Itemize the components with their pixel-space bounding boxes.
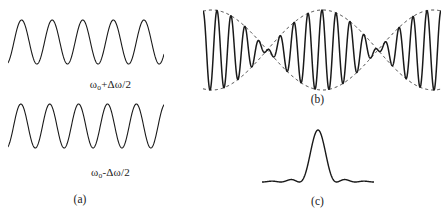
sinusoid-lower-frequency-path bbox=[8, 104, 164, 148]
sinusoid-higher-frequency-path bbox=[8, 20, 164, 64]
label-omega-plus-delta: ωo+Δω/2 bbox=[0, 79, 221, 90]
sinc-pulse-path bbox=[262, 130, 374, 182]
panel-a-wave-top bbox=[8, 14, 164, 70]
panel-b-caption: (b) bbox=[245, 94, 390, 106]
panel-b-beat bbox=[203, 4, 441, 96]
figure-container: ωo+Δω/2 ωo-Δω/2 (a) (b) (c) bbox=[0, 0, 442, 221]
sinusoid-higher-frequency-plot bbox=[8, 14, 164, 70]
panel-a-wave-bottom bbox=[8, 98, 164, 154]
panel-c-caption: (c) bbox=[245, 196, 390, 208]
sinusoid-lower-frequency-plot bbox=[8, 98, 164, 154]
panel-a-caption: (a) bbox=[0, 194, 160, 206]
label-omega-minus-delta: ωo-Δω/2 bbox=[0, 167, 221, 178]
sinc-pulse-plot bbox=[262, 118, 374, 190]
beat-waveform-plot bbox=[203, 4, 441, 96]
panel-c-pulse bbox=[262, 118, 374, 190]
